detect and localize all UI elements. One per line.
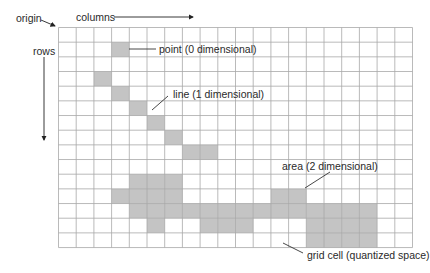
line-label: line (1 dimensional) bbox=[173, 88, 264, 100]
area-leader-line bbox=[305, 172, 330, 188]
origin-arrow-icon bbox=[41, 20, 55, 26]
grid-cell-label: grid cell (quantized space) bbox=[307, 249, 430, 261]
rows-label: rows bbox=[33, 45, 55, 57]
line-leader-line bbox=[152, 96, 168, 110]
origin-label: origin bbox=[16, 12, 42, 24]
columns-label: columns bbox=[76, 11, 115, 23]
point-label: point (0 dimensional) bbox=[159, 43, 256, 55]
grid-cell-leader-line bbox=[283, 243, 303, 253]
area-label: area (2 dimensional) bbox=[282, 160, 378, 172]
